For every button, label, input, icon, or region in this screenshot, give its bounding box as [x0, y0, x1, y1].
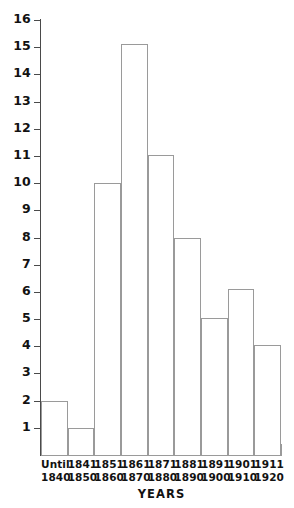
y-axis-tick — [34, 265, 41, 266]
y-axis-tick-label-wrap: 2 — [0, 401, 31, 402]
y-axis-tick-label-wrap: 4 — [0, 346, 31, 347]
x-axis-tick-label-line: 1871 — [148, 458, 175, 471]
y-axis-tick-label-wrap: 7 — [0, 265, 31, 266]
y-axis-tick-label: 13 — [5, 95, 31, 108]
y-axis-tick-label: 9 — [5, 203, 31, 216]
x-axis-tick-label-line: 1900 — [201, 471, 228, 484]
y-axis-tick — [34, 428, 41, 429]
x-axis-tick — [121, 444, 122, 456]
x-axis-tick — [281, 444, 282, 456]
y-axis-tick-label: 11 — [5, 149, 31, 162]
histogram-chart: 12345678910111213141516 Until18401841185… — [0, 0, 294, 508]
y-axis-tick — [34, 373, 41, 374]
x-axis-tick-label-line: 1890 — [174, 471, 201, 484]
x-axis-tick — [174, 444, 175, 456]
y-axis-tick-label-wrap: 6 — [0, 292, 31, 293]
y-axis-tick-label: 1 — [5, 421, 31, 434]
x-axis-tick-label-line: 1911 — [254, 458, 281, 471]
y-axis-tick-label-wrap: 9 — [0, 210, 31, 211]
histogram-bar — [254, 345, 281, 455]
x-axis-tick-label: 18911900 — [201, 458, 228, 483]
y-axis-tick-label-wrap: 10 — [0, 183, 31, 184]
y-axis-tick — [34, 401, 41, 402]
x-axis-tick-label-line: 1850 — [68, 471, 95, 484]
y-axis-tick-label-wrap: 8 — [0, 238, 31, 239]
x-axis-tick-label: 18811890 — [174, 458, 201, 483]
histogram-bar — [174, 238, 201, 456]
y-axis-tick-label-wrap: 14 — [0, 74, 31, 75]
x-axis-tick-label-line: Until — [41, 458, 68, 471]
y-axis-tick-label-wrap: 12 — [0, 129, 31, 130]
y-axis-tick-label-wrap: 13 — [0, 102, 31, 103]
x-axis-baseline — [41, 455, 282, 456]
x-axis-tick-label-line: 1860 — [94, 471, 121, 484]
y-axis-tick — [34, 74, 41, 75]
y-axis-tick — [34, 183, 41, 184]
y-axis-tick-label: 14 — [5, 67, 31, 80]
x-axis-tick-label: Until1840 — [41, 458, 68, 483]
x-axis-tick-label: 18711880 — [148, 458, 175, 483]
x-axis-tick-label: 18611870 — [121, 458, 148, 483]
y-axis-tick-label: 10 — [5, 176, 31, 189]
x-axis-tick-label: 19111920 — [254, 458, 281, 483]
y-axis-tick-label-wrap: 11 — [0, 156, 31, 157]
y-axis-tick — [34, 20, 41, 21]
y-axis-tick — [34, 238, 41, 239]
histogram-bar — [94, 183, 121, 455]
histogram-bar — [121, 44, 148, 455]
histogram-bar — [41, 401, 68, 455]
x-axis-tick-label-line: 1891 — [201, 458, 228, 471]
x-axis-tick — [148, 444, 149, 456]
y-axis-tick-label: 12 — [5, 122, 31, 135]
y-axis-tick-label: 3 — [5, 366, 31, 379]
histogram-bar — [201, 318, 228, 455]
y-axis-tick — [34, 346, 41, 347]
y-axis-tick-label: 7 — [5, 258, 31, 271]
x-axis-tick-label-line: 1870 — [121, 471, 148, 484]
x-axis-tick-label: 18511860 — [94, 458, 121, 483]
x-axis-tick-label: 19011910 — [228, 458, 255, 483]
y-axis-tick-label-wrap: 3 — [0, 373, 31, 374]
x-axis-tick — [201, 444, 202, 456]
y-axis-tick — [34, 102, 41, 103]
x-axis-tick-label-line: 1861 — [121, 458, 148, 471]
x-axis-tick-label-line: 1841 — [68, 458, 95, 471]
x-axis-tick-label-line: 1910 — [228, 471, 255, 484]
y-axis-tick — [34, 156, 41, 157]
histogram-bar — [228, 289, 255, 455]
y-axis-tick-label: 2 — [5, 394, 31, 407]
y-axis-tick — [34, 292, 41, 293]
x-axis-tick-label-line: 1881 — [174, 458, 201, 471]
x-axis-tick-label-line: 1851 — [94, 458, 121, 471]
y-axis-tick-label: 16 — [5, 13, 31, 26]
y-axis-tick-label: 4 — [5, 339, 31, 352]
y-axis-tick — [34, 47, 41, 48]
y-axis-tick-label-wrap: 16 — [0, 20, 31, 21]
histogram-bar — [148, 155, 175, 455]
y-axis-tick-label: 15 — [5, 40, 31, 53]
y-axis-tick — [34, 129, 41, 130]
x-axis-tick-label-line: 1880 — [148, 471, 175, 484]
x-axis-title: YEARS — [41, 487, 282, 501]
x-axis-tick-label-line: 1920 — [254, 471, 281, 484]
x-axis-tick-label-line: 1840 — [41, 471, 68, 484]
x-axis-tick — [68, 444, 69, 456]
x-axis-tick — [254, 444, 255, 456]
y-axis-tick-label: 6 — [5, 285, 31, 298]
x-axis-tick-label-line: 1901 — [228, 458, 255, 471]
x-axis-tick — [41, 444, 42, 456]
x-axis-tick-label: 18411850 — [68, 458, 95, 483]
y-axis-tick-label-wrap: 5 — [0, 319, 31, 320]
y-axis-tick-label: 5 — [5, 312, 31, 325]
x-axis-tick — [94, 444, 95, 456]
y-axis-tick-label-wrap: 1 — [0, 428, 31, 429]
y-axis-tick-label: 8 — [5, 231, 31, 244]
y-axis-tick — [34, 319, 41, 320]
y-axis-tick — [34, 210, 41, 211]
y-axis-tick-label-wrap: 15 — [0, 47, 31, 48]
histogram-bar — [68, 428, 95, 455]
x-axis-tick — [228, 444, 229, 456]
